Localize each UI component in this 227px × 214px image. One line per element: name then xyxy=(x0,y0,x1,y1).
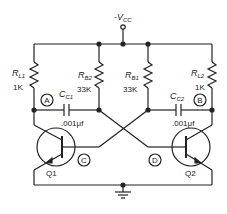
rb1-label: RB1 xyxy=(125,70,139,81)
node-a: A xyxy=(44,96,50,105)
rl1-label: RL1 xyxy=(12,68,25,79)
cc2-label: CC2 xyxy=(170,91,185,102)
rl2-value: 1K xyxy=(195,83,205,92)
rb2-value: 33K xyxy=(77,85,92,94)
node-d: D xyxy=(152,156,158,165)
q1-label: Q1 xyxy=(46,169,57,178)
node-b: B xyxy=(197,96,202,105)
rl1-value: 1K xyxy=(13,83,23,92)
cc1-label: CC1 xyxy=(59,89,73,100)
rb2-label: RB2 xyxy=(78,70,93,81)
cc2-value: .001μf xyxy=(172,119,195,128)
rl2-label: RL2 xyxy=(191,68,205,79)
rb1-value: 33K xyxy=(123,85,138,94)
node-c: C xyxy=(81,156,87,165)
q2-label: Q2 xyxy=(185,169,196,178)
cc1-value: .001μf xyxy=(61,119,84,128)
supply-label: -VCC xyxy=(114,12,132,23)
